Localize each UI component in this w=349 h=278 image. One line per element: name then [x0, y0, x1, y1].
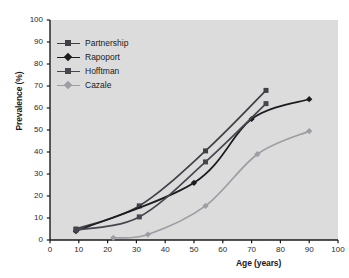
legend-swatch-icon — [57, 79, 80, 91]
x-tick-label: 30 — [126, 245, 146, 254]
y-tick-label: 30 — [23, 169, 43, 178]
x-tick-label: 100 — [328, 245, 348, 254]
x-tick-label: 40 — [155, 245, 175, 254]
legend-item-partnership: Partnership — [57, 36, 128, 50]
legend-item-label: Hofftman — [85, 66, 119, 76]
legend-swatch-icon — [57, 65, 80, 77]
legend-item-hofftman: Hofftman — [57, 64, 128, 78]
y-tick-label: 20 — [23, 191, 43, 200]
data-point-marker — [264, 88, 269, 93]
y-tick-label: 50 — [23, 125, 43, 134]
data-point-marker — [203, 148, 208, 153]
chart-legend: PartnershipRapoportHofftmanCazale — [57, 36, 128, 92]
data-point-marker — [264, 101, 269, 106]
data-point-marker — [73, 228, 78, 233]
legend-item-label: Partnership — [85, 38, 128, 48]
y-tick-label: 60 — [23, 103, 43, 112]
prevalence-by-age-chart: Prevalence (%) Age (years) 0102030405060… — [0, 0, 349, 278]
legend-item-label: Rapoport — [85, 52, 120, 62]
x-tick-label: 0 — [40, 245, 60, 254]
x-tick-label: 60 — [213, 245, 233, 254]
x-axis-title: Age (years) — [236, 258, 281, 268]
y-tick-label: 100 — [23, 15, 43, 24]
y-tick-label: 10 — [23, 213, 43, 222]
y-tick-label: 90 — [23, 37, 43, 46]
x-tick-label: 10 — [69, 245, 89, 254]
x-tick-label: 70 — [242, 245, 262, 254]
legend-swatch-icon — [57, 51, 80, 63]
legend-item-rapoport: Rapoport — [57, 50, 128, 64]
legend-swatch-icon — [57, 37, 80, 49]
legend-item-label: Cazale — [85, 80, 111, 90]
y-tick-label: 80 — [23, 59, 43, 68]
data-point-marker — [203, 159, 208, 164]
legend-item-cazale: Cazale — [57, 78, 128, 92]
data-point-marker — [137, 214, 142, 219]
y-tick-label: 70 — [23, 81, 43, 90]
chart-canvas — [0, 0, 349, 278]
x-tick-label: 80 — [270, 245, 290, 254]
x-tick-label: 50 — [184, 245, 204, 254]
x-tick-label: 90 — [299, 245, 319, 254]
y-tick-label: 0 — [23, 235, 43, 244]
y-tick-label: 40 — [23, 147, 43, 156]
x-tick-label: 20 — [98, 245, 118, 254]
